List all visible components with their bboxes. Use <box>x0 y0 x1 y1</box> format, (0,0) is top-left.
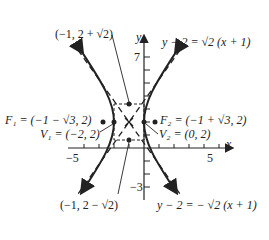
top-point-label: (−1, 2 + √2) <box>55 28 113 40</box>
asymptote-positive-label: y − 2 = √2 (x + 1) <box>162 36 251 48</box>
top-point <box>127 102 132 107</box>
vertex-2-label: V₂ = (0, 2) <box>159 128 211 140</box>
bottom-point <box>127 138 132 143</box>
y-tick-7: 7 <box>134 51 140 63</box>
focus-1-label: F₁ = (−1 − √3, 2) <box>5 114 91 126</box>
y-axis-label: y <box>136 31 141 43</box>
vertex-1-point <box>112 120 117 125</box>
vertex-1-label: V₁ = (−2, 2) <box>40 128 100 140</box>
x-tick-5: 5 <box>207 152 213 164</box>
focus-1-point <box>101 120 106 125</box>
vertex-2-point <box>142 120 147 125</box>
bottom-point-label: (−1, 2 − √2) <box>60 199 118 211</box>
focus-2-label: F₂ = (−1 + √3, 2) <box>160 114 246 126</box>
asymptote-negative-label: y − 2 = − √2 (x + 1) <box>157 199 257 211</box>
x-axis-label: x <box>226 138 231 150</box>
y-tick-neg3: −3 <box>130 181 143 193</box>
leader-lines <box>100 35 158 194</box>
focus-2-point <box>153 120 158 125</box>
x-tick-neg5: −5 <box>66 152 79 164</box>
center-mark <box>125 118 133 126</box>
